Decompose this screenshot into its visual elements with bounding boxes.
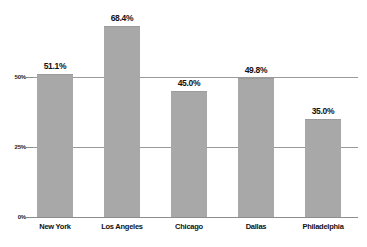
- gridline-0: [33, 217, 358, 218]
- bar-value-los-angeles: 68.4%: [94, 13, 150, 23]
- bar-value-philadelphia: 35.0%: [295, 106, 351, 116]
- bar-value-new-york: 51.1%: [27, 61, 83, 71]
- bar-chart: 0% 25% 50% 51.1% New York 68.4% Los Ange…: [0, 0, 367, 247]
- bar-philadelphia[interactable]: [305, 119, 341, 217]
- bar-los-angeles[interactable]: [104, 26, 140, 217]
- category-label-los-angeles: Los Angeles: [90, 222, 154, 231]
- category-label-philadelphia: Philadelphia: [291, 222, 355, 231]
- bar-new-york[interactable]: [37, 74, 73, 217]
- plot-area: 0% 25% 50% 51.1% New York 68.4% Los Ange…: [0, 0, 367, 247]
- tick-mark-25: [26, 147, 33, 148]
- ytick-label-50: 50%: [2, 74, 26, 81]
- tick-mark-0: [26, 217, 33, 218]
- ytick-label-0: 0%: [2, 214, 26, 221]
- bar-dallas[interactable]: [238, 78, 274, 217]
- category-label-dallas: Dallas: [228, 222, 284, 231]
- bar-value-chicago: 45.0%: [161, 78, 217, 88]
- bar-value-dallas: 49.8%: [228, 65, 284, 75]
- bar-chicago[interactable]: [171, 91, 207, 217]
- category-label-chicago: Chicago: [161, 222, 217, 231]
- tick-mark-50: [26, 77, 33, 78]
- category-label-new-york: New York: [27, 222, 83, 231]
- ytick-label-25: 25%: [2, 144, 26, 151]
